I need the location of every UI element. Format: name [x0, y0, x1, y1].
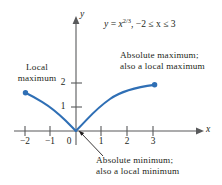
annotation-absolute-minimum: Absolute minimum; also a local minimum: [96, 155, 220, 176]
annotation-local-maximum: Local maximum: [6, 62, 68, 83]
endpoint-dot-right-absolute-maximum: [152, 82, 157, 87]
equation-equals: =: [108, 18, 118, 29]
equation-exponent: 2/3: [123, 17, 131, 24]
y-axis-arrowhead: [73, 16, 80, 24]
curve-left-branch: [26, 93, 76, 131]
x-tick-label-2: 2: [120, 136, 134, 146]
equation-label: y = x2/3, −2 ≤ x ≤ 3: [104, 18, 176, 29]
x-axis-arrowhead: [196, 128, 204, 135]
x-tick-label-0: 0: [62, 136, 76, 146]
figure-graph-x-two-thirds: y = x2/3, −2 ≤ x ≤ 3 x y −2 −1 0 1 2 3 1…: [0, 0, 222, 185]
equation-domain: , −2 ≤ x ≤ 3: [131, 18, 176, 29]
endpoint-dot-left-local-maximum: [23, 90, 28, 95]
x-tick-label--1: −1: [43, 136, 57, 146]
curve-right-branch: [76, 85, 155, 131]
y-tick-label-1: 1: [56, 101, 70, 111]
y-axis-label: y: [80, 8, 84, 19]
x-axis-label: x: [206, 123, 210, 134]
x-tick-label-3: 3: [146, 136, 160, 146]
annotation-absolute-maximum: Absolute maximum; also a local maximum: [120, 50, 220, 71]
x-tick-label--2: −2: [18, 136, 32, 146]
x-tick-label-1: 1: [94, 136, 108, 146]
